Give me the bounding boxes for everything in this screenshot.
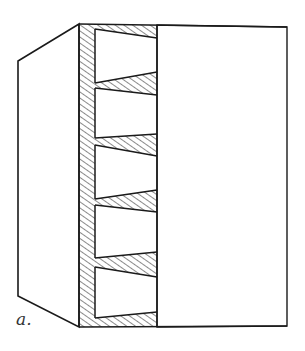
side-panel [18,24,79,327]
cabinet-drawing [0,0,305,351]
figure-label: a. [16,309,32,329]
front-panel [157,25,287,327]
back-wall [79,24,95,327]
